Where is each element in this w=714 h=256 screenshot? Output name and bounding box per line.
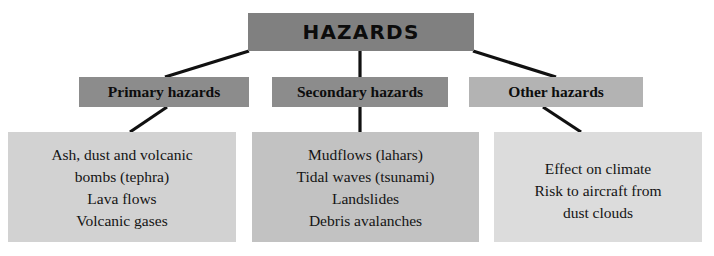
connector-other-to-detail (543, 107, 581, 132)
connector-primary-to-detail (130, 107, 167, 132)
detail-panel-secondary: Mudflows (lahars) Tidal waves (tsunami) … (252, 132, 479, 242)
connector-root-to-primary (165, 51, 249, 77)
detail-panel-other: Effect on climate Risk to aircraft from … (494, 132, 702, 242)
detail-panel-other-items: Effect on climate Risk to aircraft from … (535, 158, 662, 224)
detail-panel-secondary-items: Mudflows (lahars) Tidal waves (tsunami) … (296, 144, 434, 232)
category-header-secondary-label: Secondary hazards (297, 84, 423, 100)
hazards-diagram: HAZARDS Primary hazards Secondary hazard… (0, 0, 714, 256)
category-header-other-label: Other hazards (508, 84, 604, 100)
category-header-primary-label: Primary hazards (108, 84, 220, 100)
connector-root-to-other (473, 51, 556, 77)
category-header-secondary: Secondary hazards (272, 77, 448, 107)
category-header-primary: Primary hazards (79, 77, 249, 107)
root-node-label: HAZARDS (302, 22, 419, 42)
detail-panel-primary: Ash, dust and volcanic bombs (tephra) La… (8, 132, 236, 242)
category-header-other: Other hazards (469, 77, 643, 107)
detail-panel-primary-items: Ash, dust and volcanic bombs (tephra) La… (51, 144, 192, 232)
root-node-hazards: HAZARDS (248, 13, 474, 51)
